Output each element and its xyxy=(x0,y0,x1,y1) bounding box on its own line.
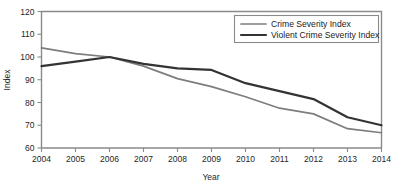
x-axis-ticks: 2004200520062007200820092010201120122013… xyxy=(32,148,391,164)
line-chart: 60708090100110120 2004200520062007200820… xyxy=(0,0,407,187)
x-tick-label: 2013 xyxy=(338,154,357,164)
y-tick-label: 60 xyxy=(25,143,35,153)
x-tick-label: 2011 xyxy=(270,154,289,164)
chart-canvas: 60708090100110120 2004200520062007200820… xyxy=(0,0,407,187)
x-tick-label: 2004 xyxy=(32,154,51,164)
y-tick-label: 120 xyxy=(20,7,34,17)
series-line-violent-crime-severity-index xyxy=(42,57,382,125)
y-tick-label: 100 xyxy=(20,52,34,62)
x-tick-label: 2005 xyxy=(66,154,85,164)
y-tick-label: 80 xyxy=(25,98,35,108)
y-tick-label: 70 xyxy=(25,120,35,130)
y-tick-label: 90 xyxy=(25,75,35,85)
chart-legend: Crime Severity Index Violent Crime Sever… xyxy=(235,16,380,43)
y-axis-ticks: 60708090100110120 xyxy=(20,7,41,154)
x-axis-title: Year xyxy=(202,172,219,182)
x-tick-label: 2008 xyxy=(168,154,187,164)
x-tick-label: 2014 xyxy=(372,154,391,164)
x-tick-label: 2007 xyxy=(134,154,153,164)
series-line-crime-severity-index xyxy=(42,48,382,133)
y-tick-label: 110 xyxy=(21,29,35,39)
x-tick-label: 2009 xyxy=(202,154,221,164)
legend-label-crime-severity-index: Crime Severity Index xyxy=(271,19,351,29)
x-tick-label: 2006 xyxy=(100,154,119,164)
x-tick-label: 2012 xyxy=(304,154,323,164)
legend-label-violent-crime-severity-index: Violent Crime Severity Index xyxy=(271,30,380,40)
x-tick-label: 2010 xyxy=(236,154,255,164)
data-series-group xyxy=(42,48,382,133)
y-axis-title: Index xyxy=(2,69,12,91)
